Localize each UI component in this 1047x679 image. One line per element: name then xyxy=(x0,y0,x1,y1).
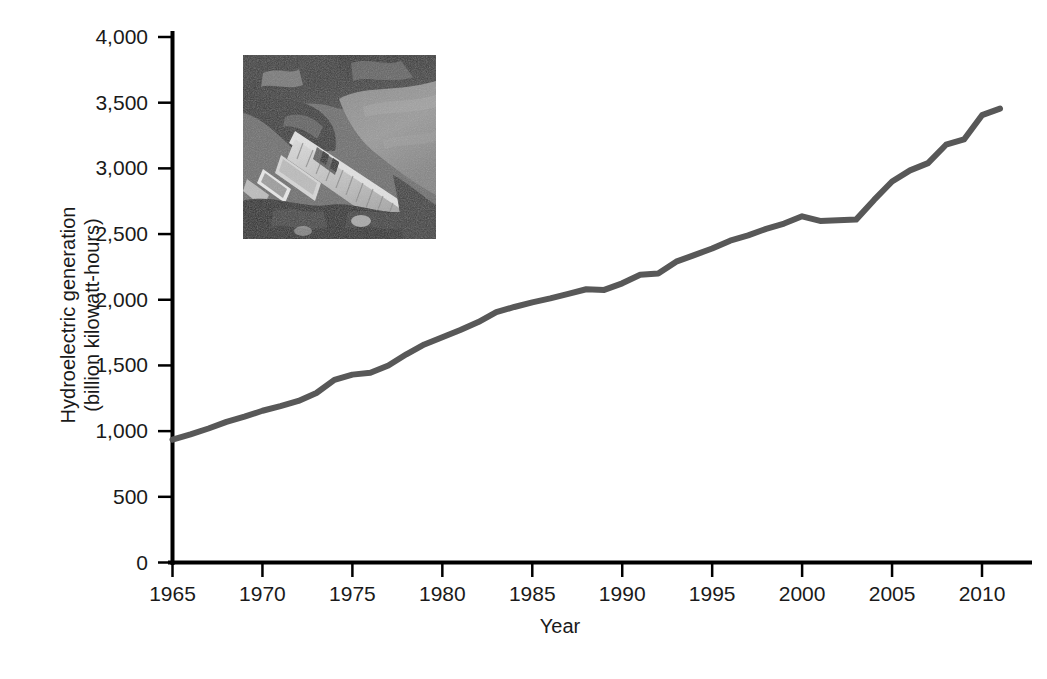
y-tick-label-500: 500 xyxy=(113,485,148,508)
y-axis-title: Hydroelectric generation (billion kilowa… xyxy=(57,207,103,424)
x-tick-label-1965: 1965 xyxy=(149,582,196,605)
y-axis-title-line1: Hydroelectric generation xyxy=(57,207,79,424)
y-tick-label-2500: 2,500 xyxy=(95,222,148,245)
y-tick-label-0: 0 xyxy=(136,551,148,574)
y-axis-title-line2: (billion kilowatt-hours) xyxy=(81,218,103,411)
x-axis-tick-labels: 1965197019751980198519901995200020052010 xyxy=(149,582,1005,605)
figure-canvas: 05001,0001,5002,0002,5003,0003,5004,000 … xyxy=(0,0,1047,679)
x-tick-label-1970: 1970 xyxy=(239,582,286,605)
x-axis-group: 1965197019751980198519901995200020052010 xyxy=(149,562,1030,605)
x-tick-label-1980: 1980 xyxy=(419,582,466,605)
y-tick-label-1500: 1,500 xyxy=(95,353,148,376)
x-axis-title: Year xyxy=(540,615,581,637)
y-tick-label-3000: 3,000 xyxy=(95,156,148,179)
x-tick-label-2010: 2010 xyxy=(959,582,1006,605)
y-tick-label-1000: 1,000 xyxy=(95,419,148,442)
x-tick-label-1975: 1975 xyxy=(329,582,376,605)
x-tick-label-1990: 1990 xyxy=(599,582,646,605)
dam-photo-image xyxy=(243,55,436,239)
y-tick-label-2000: 2,000 xyxy=(95,288,148,311)
x-tick-label-2005: 2005 xyxy=(869,582,916,605)
x-tick-label-1995: 1995 xyxy=(689,582,736,605)
y-tick-label-4000: 4,000 xyxy=(95,25,148,48)
y-axis-tick-marks xyxy=(158,37,172,563)
x-tick-label-2000: 2000 xyxy=(779,582,826,605)
y-tick-label-3500: 3,500 xyxy=(95,91,148,114)
y-axis-group: 05001,0001,5002,0002,5003,0003,5004,000 xyxy=(95,25,172,574)
x-tick-label-1985: 1985 xyxy=(509,582,556,605)
hydroelectric-generation-line-chart: 05001,0001,5002,0002,5003,0003,5004,000 … xyxy=(0,0,1047,679)
y-axis-tick-labels: 05001,0001,5002,0002,5003,0003,5004,000 xyxy=(95,25,148,574)
hydroelectric-dam-photo xyxy=(243,55,436,239)
